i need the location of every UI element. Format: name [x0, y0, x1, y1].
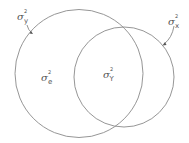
venn-diagram: σ 2 y σ 2 x σ 2 e σ 2 Y [0, 0, 189, 143]
arrow-x-pointer [164, 26, 174, 44]
svg-text:e: e [48, 78, 52, 86]
label-sigma-y: σ 2 y [17, 8, 28, 25]
svg-text:Y: Y [109, 75, 115, 83]
svg-text:2: 2 [110, 66, 113, 72]
svg-text:2: 2 [48, 69, 51, 75]
svg-text:y: y [24, 17, 28, 25]
label-sigma-e: σ 2 e [41, 69, 52, 86]
circle-y-variance [15, 10, 143, 138]
svg-text:2: 2 [175, 13, 178, 19]
svg-text:2: 2 [24, 8, 27, 14]
svg-text:x: x [175, 22, 179, 30]
label-sigma-Y-shared: σ 2 Y [103, 66, 115, 83]
circle-x-variance [74, 27, 174, 127]
